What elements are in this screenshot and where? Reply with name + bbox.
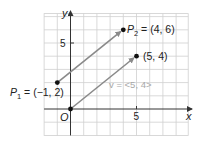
- point-tip: [134, 54, 139, 59]
- p1-letter: P: [10, 86, 17, 98]
- point-p2: [121, 27, 126, 32]
- x-axis-label: x: [185, 110, 192, 122]
- p1-coords: = (−1, 2): [21, 86, 64, 98]
- p1-label: P1 = (−1, 2): [10, 86, 64, 101]
- y-axis-label: y: [61, 7, 69, 19]
- p2-label: P2 = (4, 6): [127, 23, 175, 38]
- p2-letter: P: [127, 23, 134, 35]
- origin-label: O: [60, 111, 69, 123]
- point-p1: [55, 80, 60, 85]
- tip-label: (5, 4): [143, 50, 168, 62]
- y-tick-label: 5: [60, 38, 66, 49]
- p2-coords: = (4, 6): [138, 23, 174, 35]
- x-tick-label: 5: [134, 111, 140, 122]
- point-origin: [68, 107, 73, 112]
- vector-p1-p2: [57, 32, 120, 83]
- vector-label: v = <5, 4>: [109, 79, 152, 90]
- vector-diagram: 5 5 x y O P2 = (4, 6) (5, 4) P1 = (−1, 2…: [0, 0, 204, 144]
